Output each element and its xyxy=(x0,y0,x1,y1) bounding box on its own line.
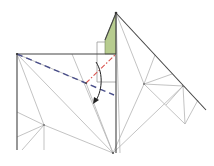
origami-fold-diagram xyxy=(0,0,214,166)
flap-outline xyxy=(97,42,105,54)
creases-right xyxy=(113,13,198,153)
creases-left xyxy=(17,54,113,153)
valley-fold-line xyxy=(17,54,114,95)
flap-outline-lower xyxy=(97,54,116,82)
colored-flap xyxy=(105,13,116,54)
nodes xyxy=(16,12,184,154)
